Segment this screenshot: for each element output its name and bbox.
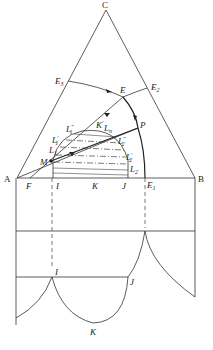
labels: C A B E3 E E2 P E1 M F I K J L1 L′1 L″1 … [4, 0, 204, 337]
label-K-prime: K′ [95, 120, 104, 130]
label-P: P [139, 120, 146, 130]
label-L1-double-prime: L″1 [65, 124, 74, 135]
label-I: I [55, 181, 60, 191]
label-A: A [4, 174, 11, 184]
label-L1-prime: L′1 [51, 135, 59, 146]
label-L2-double-prime: L″2 [117, 136, 126, 147]
immiscibility-dome [53, 130, 128, 178]
ternary-triangle [17, 10, 195, 178]
label-B: B [198, 174, 204, 184]
label-lower-I: I [54, 267, 59, 277]
lower-projection-view [16, 178, 195, 325]
label-J: J [122, 181, 127, 191]
label-Ln: Ln [103, 123, 112, 134]
label-F: F [25, 181, 32, 191]
label-L1: L1 [48, 145, 57, 156]
label-E1: E1 [146, 180, 156, 191]
projection-lines [52, 178, 145, 267]
label-L2-prime: L′2 [125, 152, 133, 163]
label-lower-K: K [89, 327, 97, 337]
label-L2: L2 [129, 164, 138, 175]
label-E3: E3 [54, 76, 64, 87]
label-E2: E2 [150, 82, 160, 93]
label-lower-J: J [130, 277, 135, 287]
label-K: K [91, 181, 99, 191]
label-E: E [119, 85, 126, 95]
phase-diagram: C A B E3 E E2 P E1 M F I K J L1 L′1 L″1 … [0, 0, 213, 350]
label-M: M [39, 157, 48, 167]
label-C: C [102, 0, 108, 10]
